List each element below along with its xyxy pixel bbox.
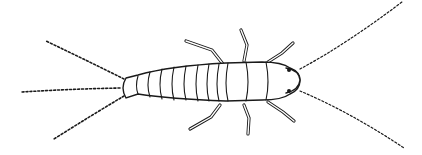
- antenna-lower: [300, 91, 404, 148]
- cercus-middle: [22, 88, 120, 92]
- cercus-upper: [46, 41, 124, 79]
- eye-lower: [287, 89, 291, 93]
- leg-front-lower-inner: [268, 102, 294, 121]
- leg-hind-upper: [186, 41, 223, 64]
- silverfish-icon: [0, 0, 422, 155]
- leg-hind-lower: [190, 105, 220, 129]
- leg-mid-upper: [241, 30, 247, 61]
- antenna-upper: [300, 2, 402, 69]
- eye-upper: [287, 68, 291, 72]
- cercus-lower: [54, 96, 124, 139]
- illustration-canvas: [0, 0, 422, 155]
